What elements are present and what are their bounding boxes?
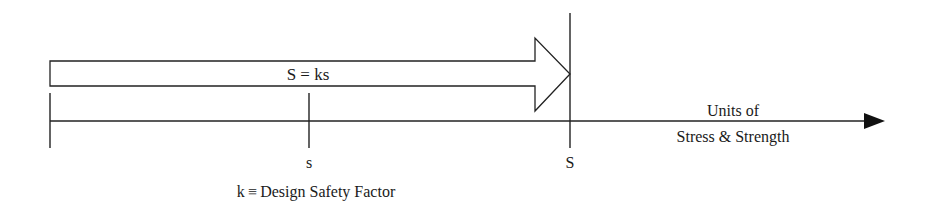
axis-label-line1: Units of xyxy=(707,102,760,119)
safety-factor-definition: k ≡ Design Safety Factor xyxy=(237,183,396,201)
strength-tick-label: S xyxy=(566,154,575,171)
safety-factor-diagram: S = ks Units of Stress & Strength s S k … xyxy=(0,0,926,210)
axis-label-line2: Stress & Strength xyxy=(677,128,790,146)
stress-tick-label: s xyxy=(306,154,312,171)
axis-arrowhead-icon xyxy=(864,113,885,129)
arrow-label: S = ks xyxy=(287,65,330,84)
